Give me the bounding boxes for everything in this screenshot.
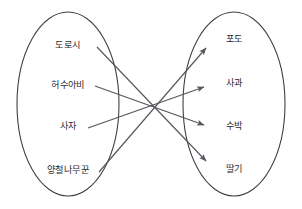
domain-item-scarecrow: 허수아비 [51,81,85,90]
domain-item-tinwoodman: 양철나무꾼 [47,166,89,175]
mapping-diagram: 도로시 허수아비 사자 양철나무꾼 포도 사과 수박 딸기 [0,0,302,209]
codomain-item-apple: 사과 [226,79,243,88]
mapping-arrow-dorothy-strawberry [97,47,206,161]
domain-item-dorothy: 도로시 [55,41,80,50]
mapping-arrow-lion-apple [88,87,204,128]
diagram-canvas [0,0,302,209]
codomain-item-strawberry: 딸기 [226,165,243,174]
codomain-item-grape: 포도 [226,35,243,44]
codomain-item-watermelon: 수박 [226,122,243,131]
domain-item-lion: 사자 [60,122,77,131]
